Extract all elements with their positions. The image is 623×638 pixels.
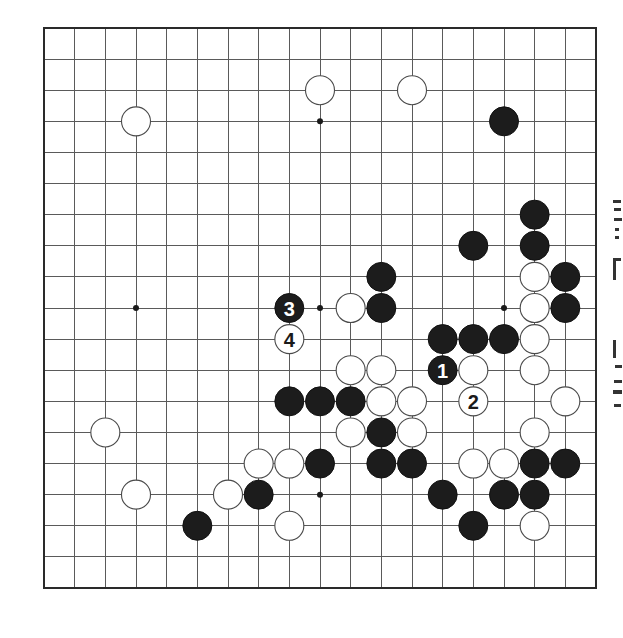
black-stone-icon bbox=[490, 325, 519, 354]
glyph-fragment bbox=[615, 365, 622, 368]
black-stone bbox=[490, 480, 519, 509]
black-stone bbox=[244, 480, 273, 509]
white-stone-icon bbox=[520, 511, 549, 540]
white-stone bbox=[122, 107, 151, 136]
white-stone bbox=[367, 387, 396, 416]
glyph-fragment bbox=[614, 404, 621, 407]
black-stone-icon bbox=[520, 480, 549, 509]
black-stone bbox=[336, 387, 365, 416]
glyph-fragment bbox=[614, 208, 621, 211]
white-stone bbox=[398, 76, 427, 105]
white-stone bbox=[520, 262, 549, 291]
black-stone-icon bbox=[551, 262, 580, 291]
glyph-fragment bbox=[613, 200, 621, 203]
black-stone-icon bbox=[275, 387, 304, 416]
white-stone-icon bbox=[122, 107, 151, 136]
black-stone-icon bbox=[428, 325, 457, 354]
white-stone: 4 bbox=[275, 325, 304, 354]
white-stone bbox=[275, 449, 304, 478]
white-stone-icon bbox=[214, 480, 243, 509]
black-stone bbox=[459, 511, 488, 540]
white-stone bbox=[367, 356, 396, 385]
white-stone-icon bbox=[490, 449, 519, 478]
white-stone bbox=[122, 480, 151, 509]
white-stone-icon bbox=[520, 418, 549, 447]
white-stone-icon bbox=[459, 449, 488, 478]
black-stone bbox=[367, 449, 396, 478]
black-stone bbox=[551, 449, 580, 478]
move-number-label: 4 bbox=[284, 329, 296, 351]
black-stone bbox=[551, 294, 580, 323]
black-stone bbox=[306, 387, 335, 416]
white-stone-icon bbox=[306, 76, 335, 105]
black-stone bbox=[551, 262, 580, 291]
white-stone-icon bbox=[520, 262, 549, 291]
black-stone-icon bbox=[306, 387, 335, 416]
glyph-fragment bbox=[615, 258, 621, 261]
move-number-label: 2 bbox=[468, 391, 479, 413]
white-stone-icon bbox=[122, 480, 151, 509]
black-stone-icon bbox=[520, 231, 549, 260]
black-stone: 3 bbox=[275, 294, 304, 323]
white-stone: 2 bbox=[459, 387, 488, 416]
white-stone-icon bbox=[275, 511, 304, 540]
white-stone-icon bbox=[520, 294, 549, 323]
black-stone-icon bbox=[459, 231, 488, 260]
star-point-icon bbox=[501, 305, 507, 311]
black-stone-icon bbox=[367, 449, 396, 478]
black-stone bbox=[428, 480, 457, 509]
white-stone-icon bbox=[398, 418, 427, 447]
black-stone bbox=[183, 511, 212, 540]
glyph-fragment bbox=[614, 380, 622, 383]
black-stone bbox=[428, 325, 457, 354]
white-stone-icon bbox=[520, 356, 549, 385]
white-stone bbox=[551, 387, 580, 416]
black-stone-icon bbox=[459, 511, 488, 540]
black-stone-icon bbox=[398, 449, 427, 478]
black-stone-icon bbox=[367, 418, 396, 447]
black-stone bbox=[520, 480, 549, 509]
white-stone-icon bbox=[336, 294, 365, 323]
white-stone bbox=[214, 480, 243, 509]
black-stone-icon bbox=[367, 262, 396, 291]
black-stone-icon bbox=[428, 480, 457, 509]
move-number-label: 1 bbox=[437, 360, 448, 382]
white-stone bbox=[244, 449, 273, 478]
glyph-fragment bbox=[615, 228, 619, 231]
black-stone-icon bbox=[336, 387, 365, 416]
black-stone bbox=[306, 449, 335, 478]
white-stone-icon bbox=[551, 387, 580, 416]
white-stone bbox=[459, 449, 488, 478]
black-stone bbox=[490, 325, 519, 354]
move-number-label: 3 bbox=[284, 298, 295, 320]
white-stone bbox=[336, 356, 365, 385]
white-stone bbox=[398, 387, 427, 416]
white-stone-icon bbox=[91, 418, 120, 447]
black-stone-icon bbox=[244, 480, 273, 509]
black-stone-icon bbox=[520, 200, 549, 229]
white-stone bbox=[520, 418, 549, 447]
white-stone bbox=[398, 418, 427, 447]
white-stone bbox=[336, 294, 365, 323]
white-stone bbox=[275, 511, 304, 540]
black-stone bbox=[367, 262, 396, 291]
glyph-fragment bbox=[613, 258, 616, 280]
black-stone-icon bbox=[306, 449, 335, 478]
white-stone bbox=[520, 511, 549, 540]
black-stone bbox=[459, 231, 488, 260]
black-stone-icon bbox=[551, 294, 580, 323]
black-stone-icon bbox=[459, 325, 488, 354]
cropped-side-text bbox=[609, 190, 623, 420]
white-stone-icon bbox=[367, 356, 396, 385]
white-stone-icon bbox=[336, 356, 365, 385]
white-stone-icon bbox=[275, 449, 304, 478]
white-stone-icon bbox=[398, 387, 427, 416]
black-stone-icon bbox=[183, 511, 212, 540]
white-stone bbox=[459, 356, 488, 385]
black-stone bbox=[367, 294, 396, 323]
black-stone bbox=[367, 418, 396, 447]
white-stone bbox=[306, 76, 335, 105]
white-stone-icon bbox=[367, 387, 396, 416]
black-stone-icon bbox=[367, 294, 396, 323]
star-point-icon bbox=[317, 305, 323, 311]
